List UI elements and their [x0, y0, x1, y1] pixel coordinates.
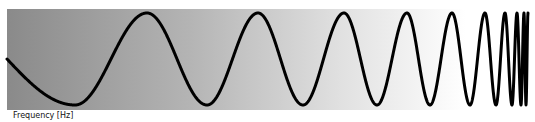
chirp-wave [0, 0, 535, 122]
x-axis-label: Frequency [Hz] [13, 111, 73, 120]
